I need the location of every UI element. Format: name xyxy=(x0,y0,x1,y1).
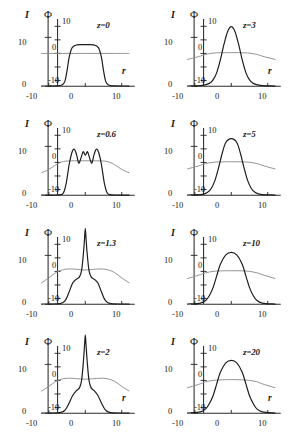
panel-z-label-z2: z=2 xyxy=(97,347,110,357)
radial-tick-0: 0 xyxy=(215,310,219,319)
phase-tick-10: 10 xyxy=(62,344,71,353)
intensity-tick-10: 10 xyxy=(18,38,27,47)
phase-axis-label: Φ xyxy=(190,335,198,347)
intensity-tick-10: 10 xyxy=(164,38,173,47)
radial-tick-10: 10 xyxy=(258,201,267,210)
phase-tick-10: 10 xyxy=(208,344,217,353)
intensity-tick-0: 0 xyxy=(168,407,172,416)
intensity-tick-0: 0 xyxy=(22,80,26,89)
phase-tick-10: 10 xyxy=(208,17,217,26)
intensity-axis-label: I xyxy=(25,9,29,20)
radial-tick-0: 0 xyxy=(69,419,73,428)
plot-panel-z3: I Φ r 0 10 10 0 -10 -10 0 10 z=3 xyxy=(146,0,292,109)
radial-tick-neg10: -10 xyxy=(172,310,183,319)
radial-tick-10: 10 xyxy=(112,310,121,319)
radial-tick-neg10: -10 xyxy=(26,419,37,428)
phase-tick-10: 10 xyxy=(208,235,217,244)
phase-tick-10: 10 xyxy=(62,235,71,244)
intensity-axis-label: I xyxy=(171,336,175,347)
intensity-tick-0: 0 xyxy=(168,80,172,89)
intensity-tick-10: 10 xyxy=(164,256,173,265)
panel-z-label-z10: z=10 xyxy=(243,238,260,248)
phase-tick-0: 0 xyxy=(52,43,56,52)
radial-tick-10: 10 xyxy=(258,310,267,319)
phase-tick-10: 10 xyxy=(208,126,217,135)
radial-tick-neg10: -10 xyxy=(26,92,37,101)
radial-tick-10: 10 xyxy=(258,419,267,428)
plot-panel-z10: I Φ 0 10 10 0 -10 -10 0 10 z=10 xyxy=(146,218,292,327)
plot-panel-z06: I Φ 0 10 10 0 -10 -10 0 10 z=0.6 xyxy=(0,109,146,218)
phase-tick-neg10: -10 xyxy=(48,185,59,194)
radial-tick-10: 10 xyxy=(112,419,121,428)
panel-z-label-z13: z=1.3 xyxy=(97,238,116,248)
radial-tick-10: 10 xyxy=(112,92,121,101)
intensity-axis-label: I xyxy=(25,227,29,238)
intensity-axis-label: I xyxy=(171,118,175,129)
phase-axis-label: Φ xyxy=(44,335,52,347)
phase-axis-label: Φ xyxy=(190,8,198,20)
radial-tick-0: 0 xyxy=(69,201,73,210)
intensity-tick-0: 0 xyxy=(168,298,172,307)
phase-tick-neg10: -10 xyxy=(194,294,205,303)
phase-axis-label: Φ xyxy=(44,8,52,20)
radial-tick-0: 0 xyxy=(215,201,219,210)
panel-z-label-z06: z=0.6 xyxy=(97,129,116,139)
phase-axis-label: Φ xyxy=(44,226,52,238)
panel-z-label-z20: z=20 xyxy=(243,347,260,357)
phase-tick-0: 0 xyxy=(198,43,202,52)
radial-tick-0: 0 xyxy=(69,92,73,101)
intensity-tick-10: 10 xyxy=(18,365,27,374)
radial-tick-neg10: -10 xyxy=(172,419,183,428)
intensity-axis-label: I xyxy=(25,118,29,129)
intensity-tick-0: 0 xyxy=(22,407,26,416)
radial-tick-neg10: -10 xyxy=(172,92,183,101)
phase-tick-0: 0 xyxy=(198,370,202,379)
intensity-tick-10: 10 xyxy=(164,365,173,374)
phase-tick-0: 0 xyxy=(198,261,202,270)
phase-curve-z10 xyxy=(188,271,276,279)
intensity-tick-0: 0 xyxy=(22,298,26,307)
intensity-tick-0: 0 xyxy=(168,189,172,198)
phase-axis-label: Φ xyxy=(190,226,198,238)
radial-tick-0: 0 xyxy=(215,419,219,428)
phase-axis-label: Φ xyxy=(44,117,52,129)
radial-axis-label: r xyxy=(268,393,272,403)
phase-tick-neg10: -10 xyxy=(48,403,59,412)
radial-tick-neg10: -10 xyxy=(26,201,37,210)
radial-tick-neg10: -10 xyxy=(26,310,37,319)
radial-tick-0: 0 xyxy=(69,310,73,319)
intensity-tick-10: 10 xyxy=(18,147,27,156)
radial-axis-label: r xyxy=(122,393,126,403)
radial-axis-label: r xyxy=(122,66,126,76)
plot-panel-z0: I Φ r 0 10 10 0 -10 -10 0 10 z=0 xyxy=(0,0,146,109)
phase-tick-0: 0 xyxy=(198,152,202,161)
panel-z-label-z0: z=0 xyxy=(97,20,110,30)
plot-panel-z5: I Φ 0 10 10 0 -10 -10 0 10 z=5 xyxy=(146,109,292,218)
phase-tick-10: 10 xyxy=(62,17,71,26)
phase-axis-label: Φ xyxy=(190,117,198,129)
phase-tick-neg10: -10 xyxy=(194,185,205,194)
radial-tick-10: 10 xyxy=(258,92,267,101)
intensity-axis-label: I xyxy=(171,9,175,20)
intensity-axis-label: I xyxy=(171,227,175,238)
intensity-tick-10: 10 xyxy=(18,256,27,265)
panel-z-label-z5: z=5 xyxy=(243,129,256,139)
phase-tick-neg10: -10 xyxy=(194,76,205,85)
phase-tick-0: 0 xyxy=(52,261,56,270)
radial-tick-neg10: -10 xyxy=(172,201,183,210)
phase-tick-neg10: -10 xyxy=(48,76,59,85)
intensity-tick-0: 0 xyxy=(22,189,26,198)
radial-tick-10: 10 xyxy=(112,201,121,210)
figure-panel-grid: I Φ r 0 10 10 0 -10 -10 0 10 z=0 I Φ r 0 xyxy=(0,0,292,436)
plot-panel-z20: I Φ r 0 10 10 0 -10 -10 0 10 z=20 xyxy=(146,327,292,436)
panel-z-label-z3: z=3 xyxy=(243,20,256,30)
phase-tick-10: 10 xyxy=(62,126,71,135)
intensity-tick-10: 10 xyxy=(164,147,173,156)
phase-tick-neg10: -10 xyxy=(48,294,59,303)
phase-tick-0: 0 xyxy=(52,370,56,379)
phase-tick-0: 0 xyxy=(52,152,56,161)
radial-axis-label: r xyxy=(268,66,272,76)
radial-tick-0: 0 xyxy=(215,92,219,101)
intensity-axis-label: I xyxy=(25,336,29,347)
plot-panel-z2: I Φ r 0 10 10 0 -10 -10 0 10 z=2 xyxy=(0,327,146,436)
